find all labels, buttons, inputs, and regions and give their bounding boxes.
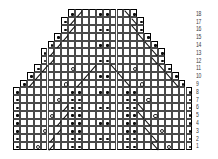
chart-cell (61, 142, 68, 150)
purl-dot-symbol (30, 75, 33, 78)
chart-cell (144, 142, 151, 150)
chart-cell (144, 134, 151, 142)
yarn-over-circle-symbol (167, 145, 171, 149)
purl-dot-symbol (71, 99, 74, 102)
purl-dot-symbol (16, 114, 19, 117)
chart-cell (117, 41, 124, 49)
chart-cell (123, 80, 130, 88)
chart-cell (137, 64, 144, 72)
chart-cell (103, 134, 110, 142)
chart-cell (151, 142, 158, 150)
yarn-over-circle-symbol (140, 82, 144, 86)
chart-cell (96, 80, 103, 88)
chart-cell (27, 80, 34, 88)
chart-cell (75, 9, 82, 17)
chart-cell (110, 64, 117, 72)
purl-dot-symbol (71, 13, 74, 16)
chart-cell (20, 87, 27, 95)
chart-cell (123, 41, 130, 49)
chart-cell (103, 119, 110, 127)
row-number: 9 (196, 80, 199, 87)
chart-cell (75, 72, 82, 80)
chart-cell (186, 95, 193, 103)
chart-cell (48, 64, 55, 72)
yarn-over-circle-symbol (133, 67, 137, 71)
chart-cell (20, 142, 27, 150)
chart-cell (41, 134, 48, 142)
chart-cell (75, 56, 82, 64)
purl-dot-symbol (78, 114, 81, 117)
chart-cell (61, 126, 68, 134)
purl-dot-symbol (106, 75, 109, 78)
chart-cell (54, 56, 61, 64)
chart-cell (48, 134, 55, 142)
chart-cell (96, 56, 103, 64)
chart-cell (27, 142, 34, 150)
chart-cell (130, 134, 137, 142)
chart-cell (68, 64, 75, 72)
chart-cell (82, 9, 89, 17)
chart-cell (179, 103, 186, 111)
chart-cell (158, 111, 165, 119)
chart-cell (151, 87, 158, 95)
chart-cell (54, 95, 61, 103)
chart-cell (117, 72, 124, 80)
purl-dot-symbol (99, 60, 102, 63)
chart-cell (82, 142, 89, 150)
chart-cell (82, 111, 89, 119)
chart-cell (34, 87, 41, 95)
chart-cell (54, 87, 61, 95)
chart-cell (117, 134, 124, 142)
purl-dot-symbol (106, 107, 109, 110)
chart-cell (54, 126, 61, 134)
purl-dot-symbol (140, 21, 143, 24)
chart-cell (165, 142, 172, 150)
chart-cell (117, 95, 124, 103)
row-number: 18 (196, 10, 201, 17)
chart-cell (172, 80, 179, 88)
chart-cell (89, 119, 96, 127)
chart-cell (68, 87, 75, 95)
chart-cell (123, 72, 130, 80)
chart-cell (165, 119, 172, 127)
chart-cell (130, 72, 137, 80)
purl-dot-symbol (126, 107, 129, 110)
chart-cell (89, 80, 96, 88)
chart-cell (103, 111, 110, 119)
chart-cell (48, 111, 55, 119)
chart-cell (123, 103, 130, 111)
chart-cell (13, 119, 20, 127)
chart-cell (48, 48, 55, 56)
chart-cell (151, 126, 158, 134)
chart-cell (89, 25, 96, 33)
purl-dot-symbol (126, 99, 129, 102)
chart-cell (144, 119, 151, 127)
chart-cell (123, 25, 130, 33)
chart-cell (89, 103, 96, 111)
chart-cell (89, 64, 96, 72)
chart-cell (89, 9, 96, 17)
chart-cell (89, 142, 96, 150)
chart-cell (54, 111, 61, 119)
chart-cell (172, 134, 179, 142)
chart-cell (82, 64, 89, 72)
purl-dot-symbol (175, 75, 178, 78)
chart-cell (117, 64, 124, 72)
chart-cell (158, 56, 165, 64)
chart-cell (82, 126, 89, 134)
chart-cell (186, 119, 193, 127)
row-number: 13 (196, 49, 201, 56)
chart-cell (54, 103, 61, 111)
chart-cell (165, 126, 172, 134)
chart-cell (130, 33, 137, 41)
purl-dot-symbol (126, 146, 129, 149)
chart-cell (41, 72, 48, 80)
chart-cell (34, 64, 41, 72)
chart-cell (75, 33, 82, 41)
chart-cell (179, 95, 186, 103)
chart-cell (137, 142, 144, 150)
row-number: 2 (196, 135, 199, 142)
purl-dot-symbol (106, 60, 109, 63)
chart-cell (54, 72, 61, 80)
chart-cell (186, 126, 193, 134)
